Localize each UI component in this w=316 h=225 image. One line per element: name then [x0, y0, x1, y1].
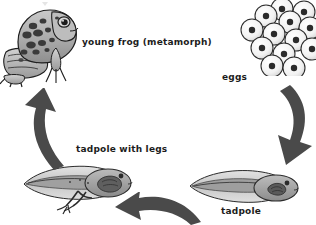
label-tadpole-with-legs: tadpole with legs: [76, 145, 167, 154]
egg-cluster-icon: [222, 0, 316, 76]
label-young-frog: young frog (metamorph): [82, 38, 212, 47]
arrow-eggs-to-tadpole-icon: [252, 82, 316, 168]
label-eggs: eggs: [222, 73, 247, 82]
frog-life-cycle-diagram: young frog (metamorph): [0, 0, 316, 225]
arrow-tadpole-with-legs-to-frog-icon: [10, 88, 68, 172]
tadpole-icon: [186, 164, 304, 206]
frog-icon: [0, 2, 82, 90]
label-tadpole: tadpole: [221, 207, 261, 216]
